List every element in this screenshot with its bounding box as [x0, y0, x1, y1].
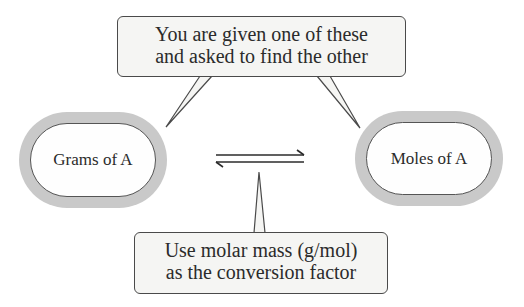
node-grams-label: Grams of A — [30, 123, 156, 197]
bottom-callout-line-1: Use molar mass (g/mol) — [135, 239, 387, 261]
equilibrium-arrow-icon — [216, 150, 304, 167]
top-callout-line-2: and asked to find the other — [118, 45, 405, 67]
bottom-callout-tail — [254, 172, 265, 233]
node-grams-of-a: Grams of A — [19, 112, 167, 208]
top-callout-line-1: You are given one of these — [118, 23, 405, 45]
top-callout-left-tail — [166, 76, 212, 127]
node-moles-of-a: Moles of A — [355, 111, 503, 206]
bottom-callout: Use molar mass (g/mol) as the conversion… — [134, 232, 388, 294]
bottom-callout-line-2: as the conversion factor — [135, 261, 387, 283]
node-moles-label: Moles of A — [366, 122, 492, 195]
top-callout-right-tail — [317, 76, 360, 128]
top-callout: You are given one of these and asked to … — [117, 16, 406, 77]
